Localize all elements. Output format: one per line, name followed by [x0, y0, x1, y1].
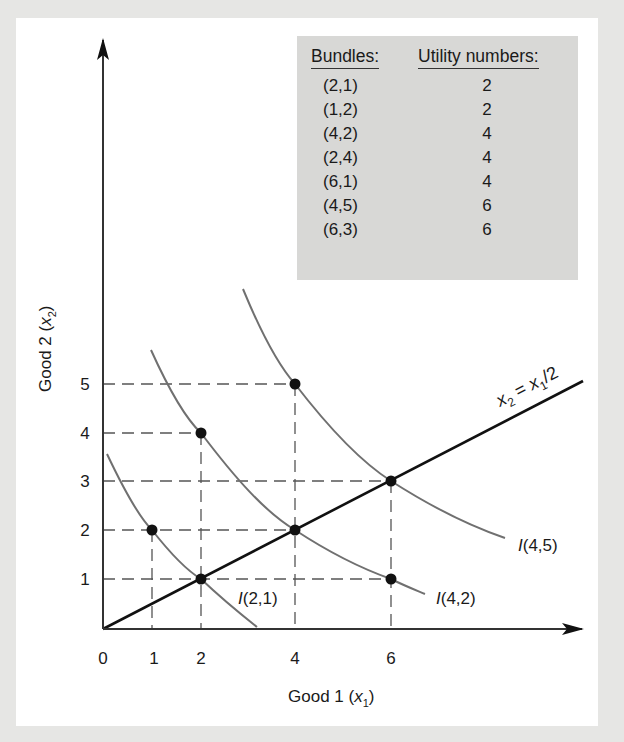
x-tick-4: 4 [290, 649, 299, 668]
x-tick-2: 2 [196, 649, 205, 668]
label-I-4-5: I(4,5) [518, 536, 558, 555]
point-2-1 [196, 574, 207, 585]
label-ray: x2 = x1/2 [492, 362, 563, 414]
point-1-2 [147, 525, 158, 536]
x-tick-6: 6 [386, 649, 395, 668]
point-4-5 [290, 379, 301, 390]
y-tick-3: 3 [80, 472, 89, 491]
indifference-curve-42 [151, 350, 425, 594]
point-2-4 [196, 428, 207, 439]
label-I-2-1: I(2,1) [238, 589, 278, 608]
x-tick-labels: 0 1 2 4 6 [98, 649, 395, 668]
indifference-curve-21 [107, 454, 257, 627]
y-tick-labels: 5 4 3 2 1 [80, 375, 89, 589]
indifference-curve-45 [243, 289, 505, 538]
indifference-chart: 5 4 3 2 1 0 1 2 4 6 Good 1 (x1) Good 2 (… [0, 0, 624, 742]
ray-line [103, 381, 583, 629]
y-axis-label: Good 2 (x2) [36, 306, 58, 392]
y-tick-4: 4 [80, 424, 89, 443]
y-tick-2: 2 [80, 521, 89, 540]
x-tick-1: 1 [149, 649, 158, 668]
point-6-3 [386, 476, 397, 487]
x-tick-0: 0 [98, 649, 107, 668]
y-tick-5: 5 [80, 375, 89, 394]
y-tick-1: 1 [80, 570, 89, 589]
point-4-2 [290, 525, 301, 536]
x-axis-label: Good 1 (x1) [288, 687, 374, 709]
label-I-4-2: I(4,2) [436, 589, 476, 608]
point-6-1 [386, 574, 397, 585]
